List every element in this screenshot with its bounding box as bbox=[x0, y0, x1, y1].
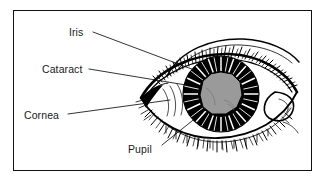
leader-line-cornea bbox=[68, 100, 170, 114]
eye-diagram-illustration bbox=[0, 0, 324, 186]
label-iris: Iris bbox=[69, 26, 83, 38]
label-cataract: Cataract bbox=[42, 63, 82, 75]
sclera-shading bbox=[163, 84, 183, 116]
label-cornea: Cornea bbox=[24, 109, 59, 121]
cataract-opacity bbox=[200, 72, 242, 114]
label-pupil: Pupil bbox=[128, 143, 152, 155]
figure-canvas: Iris Cataract Cornea Pupil bbox=[0, 0, 324, 186]
